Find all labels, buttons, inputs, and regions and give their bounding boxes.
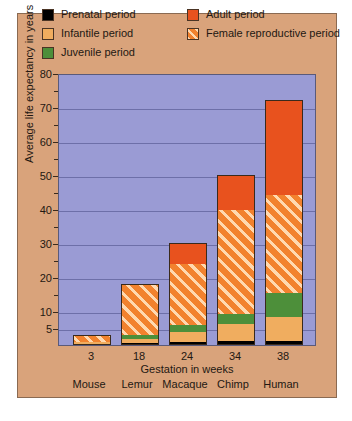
- x-tick-label-weeks: 34: [212, 350, 258, 362]
- segment-infantile: [218, 324, 254, 341]
- x-tick-label-species: Human: [258, 378, 304, 390]
- legend-item-reproductive: Female reproductive period: [187, 26, 340, 41]
- x-tick-label-weeks: 24: [164, 350, 210, 362]
- juvenile-swatch-icon: [42, 47, 54, 59]
- segment-reproductive: [74, 336, 110, 342]
- segment-adult: [218, 176, 254, 210]
- segment-juvenile: [122, 335, 158, 339]
- y-tick-label: 10: [40, 307, 52, 317]
- segment-juvenile: [266, 293, 302, 317]
- x-tick-label-species: Chimp: [210, 378, 256, 390]
- y-tick-label: 30: [40, 239, 52, 249]
- y-tick-label: 70: [40, 103, 52, 113]
- y-tick-label: 60: [40, 137, 52, 147]
- x-tick-label-weeks: 38: [260, 350, 306, 362]
- adult-swatch-icon: [187, 9, 199, 21]
- bar-lemur[interactable]: [121, 284, 159, 345]
- plot-area: [58, 74, 316, 346]
- y-tick-label: 50: [40, 171, 52, 181]
- infantile-swatch-icon: [42, 28, 54, 40]
- legend-label: Juvenile period: [61, 46, 135, 59]
- segment-infantile: [170, 332, 206, 342]
- segment-prenatal: [122, 343, 158, 344]
- legend-item-juvenile: Juvenile period: [42, 45, 135, 60]
- legend-item-infantile: Infantile period: [42, 26, 133, 41]
- bar-macaque[interactable]: [169, 243, 207, 345]
- segment-juvenile: [170, 325, 206, 332]
- segment-juvenile: [218, 314, 254, 324]
- segment-infantile: [74, 342, 110, 344]
- legend-label: Infantile period: [61, 27, 133, 40]
- legend-label: Female reproductive period: [206, 27, 340, 40]
- prenatal-swatch-icon: [42, 9, 54, 21]
- y-tick-label: 20: [40, 273, 52, 283]
- segment-adult: [170, 244, 206, 264]
- y-tick-label: 80: [40, 69, 52, 79]
- y-tick-label: 40: [40, 205, 52, 215]
- segment-reproductive: [266, 195, 302, 293]
- legend-label: Adult period: [206, 8, 265, 21]
- segment-prenatal: [218, 341, 254, 344]
- segment-prenatal: [170, 342, 206, 344]
- bar-chimp[interactable]: [217, 175, 255, 345]
- segment-infantile: [266, 317, 302, 341]
- segment-prenatal: [266, 341, 302, 344]
- bar-human[interactable]: [265, 100, 303, 345]
- legend-label: Prenatal period: [61, 8, 136, 21]
- x-tick-label-weeks: 18: [116, 350, 162, 362]
- x-axis-species-labels: Mouse Lemur Macaque Chimp Human: [58, 378, 316, 394]
- segment-infantile: [122, 339, 158, 343]
- y-axis-labels: 80 70 60 50 40 30 20 10 5: [18, 74, 52, 346]
- x-tick-label-species: Mouse: [66, 378, 112, 390]
- reproductive-swatch-icon: [187, 28, 199, 40]
- segment-reproductive: [122, 285, 158, 335]
- x-tick-label-weeks: 3: [68, 350, 114, 362]
- x-tick-label-species: Macaque: [162, 378, 208, 390]
- x-axis-title: Gestation in weeks: [58, 363, 316, 375]
- bar-mouse[interactable]: [73, 335, 111, 345]
- chart-legend: Prenatal period Adult period Infantile p…: [42, 7, 314, 61]
- legend-item-prenatal: Prenatal period: [42, 7, 136, 22]
- segment-adult: [266, 101, 302, 195]
- legend-item-adult: Adult period: [187, 7, 265, 22]
- x-tick-label-species: Lemur: [114, 378, 160, 390]
- segment-reproductive: [218, 210, 254, 315]
- segment-reproductive: [170, 264, 206, 326]
- x-axis-week-labels: 3 18 24 34 38: [58, 350, 316, 364]
- chart-figure: Prenatal period Adult period Infantile p…: [0, 0, 352, 421]
